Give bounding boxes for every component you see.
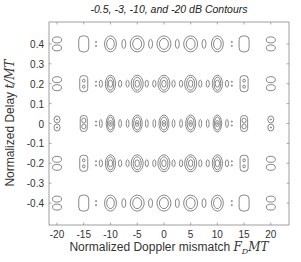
x-tick-label: -5 (133, 229, 142, 240)
x-tick-label: 15 (239, 229, 250, 240)
y-tick-label: 0 (14, 118, 44, 129)
contour-plot (0, 0, 301, 262)
x-tick-label: 5 (188, 229, 194, 240)
x-tick-label: 0 (161, 229, 167, 240)
x-axis-label: Normalized Doppler mismatch FDMT (49, 240, 289, 256)
x-tick-label: -10 (103, 229, 117, 240)
y-tick-label: -0.1 (14, 138, 44, 149)
y-tick-label: -0.2 (14, 158, 44, 169)
y-tick-label: 0.2 (14, 78, 44, 89)
x-tick-label: 20 (265, 229, 276, 240)
y-tick-label: 0.4 (14, 38, 44, 49)
y-tick-label: -0.3 (14, 178, 44, 189)
y-tick-label: 0.3 (14, 58, 44, 69)
x-axis-label-math-tail: MT (248, 240, 268, 254)
x-tick-label: -20 (50, 229, 64, 240)
x-tick-label: 10 (212, 229, 223, 240)
y-tick-label: -0.4 (14, 198, 44, 209)
x-axis-label-math: F (234, 240, 242, 254)
x-tick-label: -15 (77, 229, 91, 240)
y-tick-label: 0.1 (14, 98, 44, 109)
chart-title: -0.5, -3, -10, and -20 dB Contours (49, 3, 289, 15)
x-axis-label-text: Normalized Doppler mismatch (69, 240, 233, 254)
